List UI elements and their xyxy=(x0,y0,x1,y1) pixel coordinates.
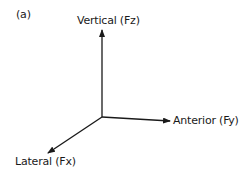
lateral-axis-label: Lateral (Fx) xyxy=(15,155,76,168)
anterior-axis xyxy=(102,117,170,121)
lateral-arrow-icon xyxy=(48,117,102,153)
anterior-axis-label: Anterior (Fy) xyxy=(173,114,239,127)
lateral-axis xyxy=(48,117,102,153)
vertical-axis-label: Vertical (Fz) xyxy=(77,14,140,27)
anterior-arrow-icon xyxy=(102,117,170,121)
